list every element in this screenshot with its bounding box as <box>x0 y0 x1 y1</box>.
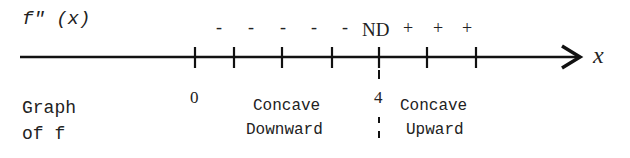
sign-negative: - <box>248 17 254 38</box>
row-label-f-double-prime: f" (x) <box>22 8 90 30</box>
sign-negative: - <box>342 17 348 38</box>
tick-label-zero: 0 <box>190 88 199 108</box>
region-concave-upward-line1: Concave <box>400 97 467 115</box>
sign-negative: - <box>280 17 286 38</box>
sign-negative: - <box>311 17 317 38</box>
sign-positive: + <box>403 18 413 39</box>
region-concave-downward-line1: Concave <box>253 97 320 115</box>
graph-label-line1: Graph <box>22 98 76 118</box>
sign-positive: + <box>462 18 472 39</box>
region-concave-downward-line2: Downward <box>246 121 323 139</box>
tick-label-four: 4 <box>374 88 383 108</box>
sign-negative: - <box>216 17 222 38</box>
not-defined-marker: ND <box>362 19 389 41</box>
axis-label-x: x <box>593 42 604 69</box>
graph-label-line2: of f <box>22 124 65 144</box>
region-concave-upward-line2: Upward <box>406 121 464 139</box>
sign-positive: + <box>433 18 443 39</box>
